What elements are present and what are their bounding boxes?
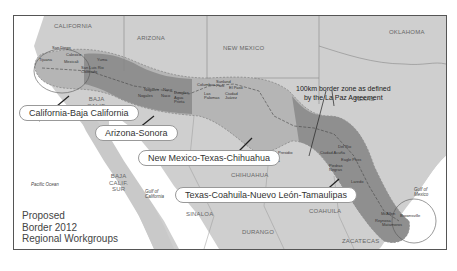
city-label: Calexico bbox=[66, 53, 81, 57]
workgroup-label-tx-coahuila-nl-tamaulipas: Texas-Coahuila-Nuevo León-Tamaulipas bbox=[175, 187, 357, 203]
city-label: Nogales bbox=[138, 94, 153, 98]
water-label-pacific: Pacific Ocean bbox=[31, 183, 59, 188]
city-label: Columbus bbox=[197, 83, 215, 87]
state-label-california: CALIFORNIA bbox=[54, 23, 92, 29]
state-label-arizona: ARIZONA bbox=[137, 35, 165, 41]
state-label-durango: DURANGO bbox=[242, 229, 274, 235]
city-label: Ciudad Acuña bbox=[320, 151, 345, 155]
workgroup-label-nm-tx-chihuahua: New Mexico-Texas-Chihuahua bbox=[138, 150, 280, 166]
city-label: Mexicali bbox=[64, 60, 78, 64]
workgroup-label-california-baja: California-Baja California bbox=[19, 105, 139, 121]
workgroup-label-arizona-sonora: Arizona-Sonora bbox=[95, 125, 178, 141]
city-label: Ciudad Juárez bbox=[225, 92, 243, 100]
city-label: Brownsville bbox=[400, 214, 420, 218]
city-label: Agua Prieta bbox=[174, 96, 188, 104]
state-label-sinaloa: SINALOA bbox=[186, 211, 213, 217]
city-label: Las Palomas bbox=[204, 92, 222, 100]
city-label: McAllen bbox=[381, 212, 395, 216]
city-label: Matamoros bbox=[382, 223, 402, 227]
city-label: Presidio bbox=[278, 151, 292, 155]
city-label: Piedras Negras bbox=[329, 164, 349, 172]
city-label: Nogales bbox=[144, 88, 159, 92]
city-label: San Luis Rio Colorado bbox=[81, 66, 107, 74]
border-region-map: CALIFORNIA ARIZONA NEW MEXICO OKLAHOMA T… bbox=[13, 15, 447, 250]
city-label: San Diego bbox=[52, 46, 71, 50]
state-label-baja-calif-sur: BAJACALIF.SUR bbox=[109, 173, 128, 193]
state-label-chihuahua: CHIHUAHUA bbox=[231, 172, 268, 178]
state-label-coahuila: COAHUILA bbox=[309, 208, 341, 214]
map-title: Proposed Border 2012 Regional Workgroups bbox=[22, 210, 118, 245]
city-label: Eagle Pass bbox=[341, 158, 361, 162]
water-label-gulf-mexico: Gulf ofMexico bbox=[414, 188, 428, 198]
state-label-zacatecas: ZACATECAS bbox=[342, 238, 379, 244]
city-label: Laredo bbox=[351, 180, 363, 184]
state-label-new-mexico: NEW MEXICO bbox=[223, 45, 264, 51]
city-label: Yuma bbox=[97, 58, 107, 62]
state-label-oklahoma: OKLAHOMA bbox=[389, 29, 425, 35]
city-label: Naco bbox=[163, 88, 172, 92]
city-label: Del Rio bbox=[338, 145, 351, 149]
border-zone-annotation: 100km border zone as definedby the La Pa… bbox=[296, 85, 391, 103]
city-label: El Paso bbox=[229, 86, 243, 90]
city-label: Naco bbox=[161, 94, 170, 98]
water-label-gulf-california: Gulf ofCalifornia bbox=[145, 190, 164, 200]
city-label: Tijuana bbox=[39, 58, 52, 62]
